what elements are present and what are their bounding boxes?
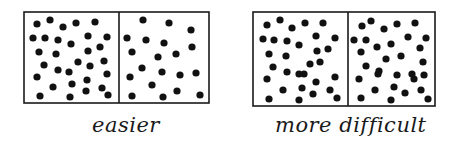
left-field-dot (333, 94, 340, 101)
left-field-dot (40, 61, 47, 68)
right-field-dot (393, 71, 400, 78)
right-field-dot (196, 91, 203, 98)
left-field-dot (263, 21, 270, 28)
left-field-dot (288, 24, 295, 31)
right-field-dot (380, 25, 387, 32)
left-field-dot (283, 37, 290, 44)
right-field-dot (187, 26, 194, 33)
left-field-dot (41, 34, 48, 41)
right-field-dot (126, 73, 133, 80)
right-field-dot (416, 44, 423, 51)
left-field-dot (52, 50, 59, 57)
left-field-dot (49, 83, 56, 90)
left-field-dot (104, 91, 111, 98)
left-field-dot (265, 50, 272, 57)
left-field-dot (29, 34, 36, 41)
left-field-dot (279, 86, 286, 93)
right-field-dot (160, 39, 167, 46)
left-field-dot (295, 70, 302, 77)
left-field-dot (270, 36, 277, 43)
right-field-dot (374, 70, 381, 77)
right-field-dot (404, 33, 411, 40)
right-field-dot (397, 52, 404, 59)
left-field-dot (298, 84, 305, 91)
right-field-dot (139, 16, 146, 23)
right-field-dot (362, 62, 369, 69)
right-field-dot (387, 96, 394, 103)
right-field-dot (417, 86, 424, 93)
left-field-dot (103, 33, 110, 40)
right-field-dot (357, 48, 364, 55)
right-field-dot (154, 53, 161, 60)
left-field-dot (312, 78, 319, 85)
left-field-dot (309, 90, 316, 97)
left-field-dot (283, 68, 290, 75)
right-field-dot (128, 92, 135, 99)
left-field-dot (265, 95, 272, 102)
left-field-dot (86, 62, 93, 69)
left-field-dot (59, 23, 66, 30)
left-field-dot (84, 47, 91, 54)
left-field-dot (83, 76, 90, 83)
right-field-dot (401, 89, 408, 96)
right-field-dot (410, 75, 417, 82)
right-field-dot (422, 34, 429, 41)
left-field-dot (96, 43, 103, 50)
right-field-dot (362, 36, 369, 43)
right-field-dot (390, 83, 397, 90)
left-field-dot (98, 84, 105, 91)
right-field-dot (128, 48, 135, 55)
left-field-dot (269, 63, 276, 70)
left-field-dot (33, 73, 40, 80)
left-field-dot (103, 70, 110, 77)
right-field-dot (424, 95, 431, 102)
left-field-dot (326, 86, 333, 93)
left-field-dot (276, 16, 283, 23)
left-field-dot (100, 57, 107, 64)
right-field-dot (419, 58, 426, 65)
left-field-dot (35, 48, 42, 55)
right-field-dot (350, 36, 357, 43)
left-field-dot (319, 19, 326, 26)
left-field-dot (295, 41, 302, 48)
left-field-dot (263, 75, 270, 82)
left-field-dot (312, 32, 319, 39)
left-field-dot (66, 93, 73, 100)
left-field-dot (54, 66, 61, 73)
right-field-dot (158, 68, 165, 75)
left-field-dot (259, 35, 266, 42)
right-field-dot (159, 93, 166, 100)
right-field-dot (142, 36, 149, 43)
left-field-dot (84, 32, 91, 39)
right-field-dot (123, 34, 130, 41)
left-field-dot (46, 16, 53, 23)
right-field-dot (393, 20, 400, 27)
left-field-dot (331, 34, 338, 41)
right-field-dot (192, 69, 199, 76)
right-field-dot (420, 71, 427, 78)
left-field-dot (295, 96, 302, 103)
left-field-dot (74, 58, 81, 65)
left-field-dot (316, 58, 323, 65)
left-field-dot (324, 45, 331, 52)
right-field-dot (138, 64, 145, 71)
right-field-dot (411, 19, 418, 26)
caption-easier: easier (92, 113, 160, 137)
panel-more-difficult (253, 12, 435, 106)
right-field-dot (355, 75, 362, 82)
right-field-dot (358, 22, 365, 29)
right-field-dot (148, 81, 155, 88)
left-field-dot (33, 20, 40, 27)
left-field-dot (91, 18, 98, 25)
left-field-dot (331, 73, 338, 80)
right-field-dot (373, 43, 380, 50)
right-field-dot (172, 50, 179, 57)
left-field-dot (306, 60, 313, 67)
caption-more-difficult: more difficult (275, 113, 427, 137)
right-field-dot (357, 94, 364, 101)
right-field-dot (382, 55, 389, 62)
right-field-dot (367, 17, 374, 24)
left-field-dot (36, 92, 43, 99)
left-field-dot (72, 19, 79, 26)
left-field-dot (67, 40, 74, 47)
